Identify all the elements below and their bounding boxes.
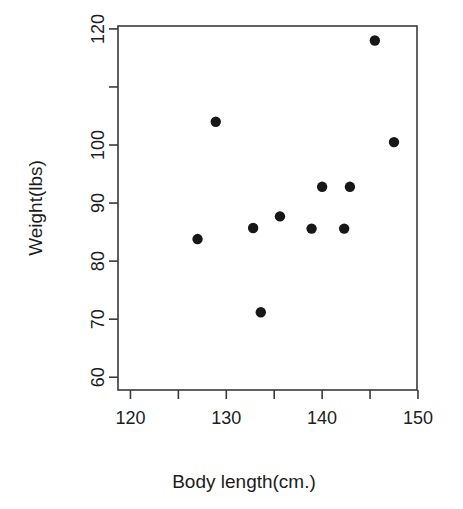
x-tick-label-120: 120 [115, 408, 145, 428]
scatter-plot-figure: 120130140150 60708090100120 Body length(… [0, 0, 463, 509]
x-tick-label-130: 130 [211, 408, 241, 428]
data-point [211, 117, 221, 127]
y-tick-label-70: 70 [88, 309, 108, 329]
figure-background [0, 0, 463, 509]
data-point [370, 35, 380, 45]
y-tick-label-60: 60 [88, 367, 108, 387]
data-point [192, 234, 202, 244]
y-tick-label-120: 120 [88, 14, 108, 44]
y-tick-label-100: 100 [88, 130, 108, 160]
data-point [306, 223, 316, 233]
data-point [345, 182, 355, 192]
y-axis-title: Weight(lbs) [25, 160, 46, 256]
data-point [275, 211, 285, 221]
y-tick-label-90: 90 [88, 193, 108, 213]
data-point [256, 307, 266, 317]
data-point [389, 137, 399, 147]
data-point [339, 223, 349, 233]
y-tick-label-80: 80 [88, 251, 108, 271]
data-point [317, 182, 327, 192]
x-tick-label-150: 150 [403, 408, 433, 428]
x-tick-label-140: 140 [307, 408, 337, 428]
data-point [248, 223, 258, 233]
x-axis-title: Body length(cm.) [172, 471, 316, 492]
